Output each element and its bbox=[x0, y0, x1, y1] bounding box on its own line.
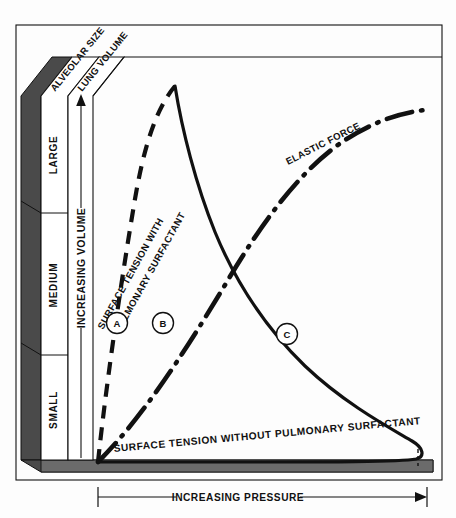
curve-surface-tension-with-surfactant bbox=[98, 86, 175, 462]
band-label-large: LARGE bbox=[48, 136, 59, 175]
pressure-axis-arrowhead bbox=[415, 492, 427, 502]
pressure-axis: INCREASING PRESSURE bbox=[98, 487, 427, 507]
band-label-small: SMALL bbox=[48, 391, 59, 429]
marker-a-label: A bbox=[114, 318, 121, 329]
figure-canvas: ALVEOLAR SIZE LUNG VOLUME LARGE MEDIUM S… bbox=[0, 0, 456, 518]
curve-label-without-surfactant: SURFACE TENSION WITHOUT PULMONARY SURFAC… bbox=[113, 415, 421, 454]
marker-b: B bbox=[153, 313, 174, 334]
pressure-axis-label: INCREASING PRESSURE bbox=[172, 492, 304, 503]
volume-axis-label: INCREASING VOLUME bbox=[75, 208, 87, 329]
marker-c: C bbox=[277, 324, 298, 345]
band-label-medium: MEDIUM bbox=[48, 263, 59, 308]
lung-pressure-volume-figure: ALVEOLAR SIZE LUNG VOLUME LARGE MEDIUM S… bbox=[0, 0, 456, 518]
marker-b-label: B bbox=[160, 318, 167, 329]
marker-a: A bbox=[107, 313, 128, 334]
marker-c-label: C bbox=[284, 329, 291, 340]
